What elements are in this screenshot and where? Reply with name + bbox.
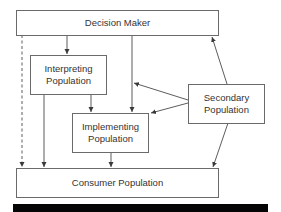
arrow-secondary-dm xyxy=(212,37,227,84)
secondary-label-line1: Secondary xyxy=(204,92,249,103)
implementing-label-line2: Population xyxy=(88,133,133,144)
secondary-population-node: Secondary Population xyxy=(188,84,265,124)
black-divider-bar xyxy=(13,204,268,212)
consumer-label: Consumer Population xyxy=(72,177,163,189)
decision-maker-node: Decision Maker xyxy=(16,10,219,36)
secondary-label-line2: Population xyxy=(204,104,249,115)
implementing-label-line1: Implementing xyxy=(82,121,139,132)
arrow-secondary-implementing xyxy=(151,103,188,113)
interpreting-label-line1: Interpreting xyxy=(44,63,92,74)
arrow-secondary-consumer xyxy=(213,123,228,167)
arrow-secondary-dm-line xyxy=(134,83,188,100)
implementing-label: Implementing Population xyxy=(82,121,139,145)
secondary-label: Secondary Population xyxy=(204,92,249,116)
consumer-population-node: Consumer Population xyxy=(16,168,219,198)
interpreting-label: Interpreting Population xyxy=(44,63,92,87)
interpreting-label-line2: Population xyxy=(46,75,91,86)
interpreting-population-node: Interpreting Population xyxy=(30,55,107,95)
implementing-population-node: Implementing Population xyxy=(72,113,149,153)
decision-maker-label: Decision Maker xyxy=(85,17,150,29)
